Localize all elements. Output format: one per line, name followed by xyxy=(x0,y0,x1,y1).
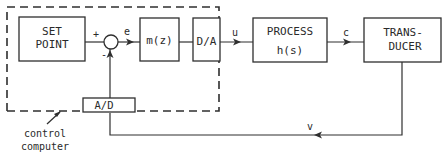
minus-sign: - xyxy=(101,49,107,60)
transducer-label-line2: DUCER xyxy=(388,40,421,53)
setpoint-block: SET POINT xyxy=(19,17,85,61)
signal-v-label: v xyxy=(307,121,313,132)
process-label-line2: h(s) xyxy=(277,44,304,57)
signal-u-label: u xyxy=(232,27,238,38)
process-block: PROCESS h(s) xyxy=(253,18,327,62)
controller-label: m(z) xyxy=(146,34,173,47)
transducer-label-line1: TRANS- xyxy=(383,26,423,39)
control-system-diagram: SET POINT + - e m(z) D/A u PROCESS h(s) … xyxy=(0,0,442,156)
controller-block: m(z) xyxy=(140,18,179,61)
boundary-label-line1: control xyxy=(24,128,66,139)
setpoint-label-line1: SET xyxy=(42,25,62,38)
adc-label: A/D xyxy=(95,99,114,111)
adc-block: A/D xyxy=(83,98,135,112)
process-label-line1: PROCESS xyxy=(267,25,313,38)
signal-e-label: e xyxy=(124,26,130,37)
boundary-label-line2: computer xyxy=(21,141,69,152)
wire-feedback xyxy=(110,62,402,135)
dac-label: D/A xyxy=(197,35,217,48)
dac-block: D/A xyxy=(193,18,220,61)
plus-sign: + xyxy=(93,29,99,40)
setpoint-label-line2: POINT xyxy=(35,38,68,51)
summing-junction-icon xyxy=(104,35,118,49)
transducer-block: TRANS- DUCER xyxy=(364,18,441,62)
signal-c-label: c xyxy=(343,27,349,38)
